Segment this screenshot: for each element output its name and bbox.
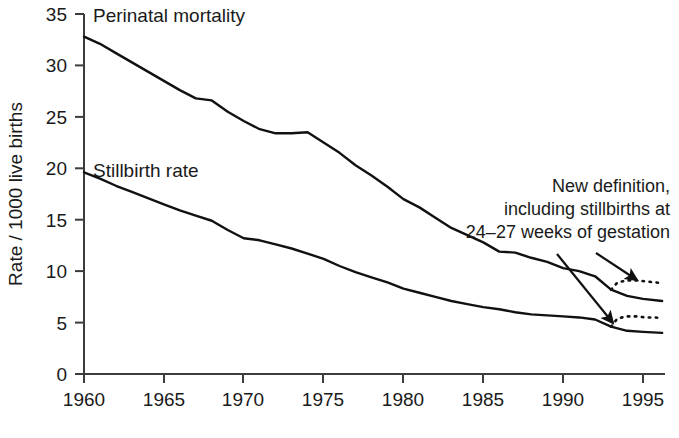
series-line-stillbirth-rate <box>84 172 611 326</box>
chart-figure: 35 30 25 20 15 10 5 0 1960 1965 1970 197… <box>0 0 679 438</box>
x-tick-label-1975: 1975 <box>302 389 344 410</box>
new-definition-dotted-lines <box>611 280 662 326</box>
y-axis-title: Rate / 1000 live births <box>5 102 26 286</box>
x-tick-label-1995: 1995 <box>622 389 664 410</box>
line-chart-canvas: 35 30 25 20 15 10 5 0 1960 1965 1970 197… <box>0 0 679 438</box>
annotation-arrow-lower <box>557 254 613 323</box>
new-definition-annotation: New definition, including stillbirths at… <box>466 176 670 242</box>
y-tick-label-20: 20 <box>46 158 67 179</box>
series-tail-stillbirth-rate <box>611 327 662 333</box>
x-axis-ticks <box>84 374 643 383</box>
series-label-stillbirth-rate: Stillbirth rate <box>93 160 199 181</box>
y-tick-label-25: 25 <box>46 107 67 128</box>
series-dotted-stillbirth-new-definition <box>611 316 662 326</box>
y-axis-ticks <box>75 14 84 374</box>
y-tick-label-15: 15 <box>46 210 67 231</box>
y-tick-label-0: 0 <box>56 364 67 385</box>
series-label-perinatal-mortality: Perinatal mortality <box>93 5 246 26</box>
x-tick-label-1980: 1980 <box>382 389 424 410</box>
annotation-arrows <box>557 253 637 323</box>
y-tick-label-35: 35 <box>46 4 67 25</box>
x-tick-label-1965: 1965 <box>143 389 185 410</box>
x-tick-label-1990: 1990 <box>542 389 584 410</box>
series-tail-perinatal-mortality <box>611 290 662 301</box>
series-dotted-perinatal-new-definition <box>611 280 662 289</box>
annotation-arrow-upper <box>596 253 637 280</box>
annotation-line-2: including stillbirths at <box>504 199 670 219</box>
y-tick-label-10: 10 <box>46 261 67 282</box>
x-tick-label-1970: 1970 <box>222 389 264 410</box>
annotation-line-1: New definition, <box>552 176 670 196</box>
y-tick-label-30: 30 <box>46 55 67 76</box>
x-tick-label-1960: 1960 <box>63 389 105 410</box>
x-tick-label-1985: 1985 <box>462 389 504 410</box>
y-tick-label-5: 5 <box>56 313 67 334</box>
annotation-line-3: 24–27 weeks of gestation <box>466 222 670 242</box>
